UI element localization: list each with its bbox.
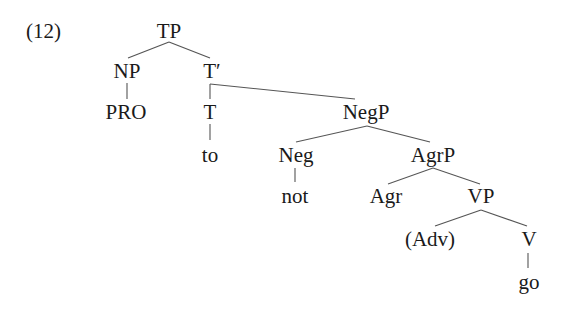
edge-vp-v	[481, 210, 527, 226]
node-np: NP	[114, 61, 141, 82]
edge-vp-adv	[435, 210, 481, 226]
node-negp: NegP	[343, 102, 390, 123]
node-t: T	[204, 102, 217, 123]
node-agrp: AgrP	[411, 145, 455, 166]
edge-tp-tbar	[169, 42, 210, 58]
node-t-bar: T′	[203, 61, 220, 82]
node-vp: VP	[468, 186, 495, 207]
node-v: V	[521, 229, 536, 250]
node-pro: PRO	[106, 102, 147, 123]
node-neg: Neg	[279, 145, 314, 166]
node-tp: TP	[157, 21, 182, 42]
edge-tp-np	[128, 42, 169, 58]
edge-negp-agrp	[367, 126, 430, 142]
edge-negp-neg	[296, 126, 367, 142]
node-adv: (Adv)	[405, 229, 455, 250]
node-to: to	[202, 145, 218, 166]
node-agr: Agr	[370, 186, 403, 207]
node-go: go	[519, 272, 540, 293]
edge-tbar-negp	[210, 84, 355, 99]
edge-agrp-agr	[388, 168, 433, 184]
node-not: not	[282, 186, 309, 207]
edge-agrp-vp	[433, 168, 480, 184]
